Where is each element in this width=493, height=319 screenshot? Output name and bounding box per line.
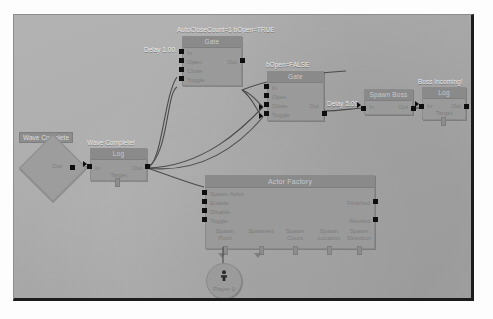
player-variable-label: Player 0 — [207, 286, 241, 292]
screenshot-root: Wave Complete Out Wave Complete! Log In … — [0, 0, 493, 319]
node-player-variable[interactable]: Player 0 — [206, 263, 242, 299]
variable-wire-layer — [14, 15, 471, 298]
player-pawn-icon — [220, 270, 228, 281]
kismet-graph-canvas[interactable]: Wave Complete Out Wave Complete! Log In … — [13, 14, 474, 301]
